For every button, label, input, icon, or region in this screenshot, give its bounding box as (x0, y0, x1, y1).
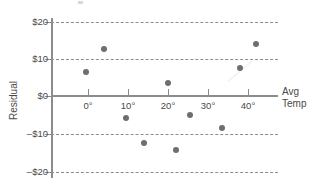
data-point (141, 140, 147, 146)
gridline-neg10 (51, 134, 278, 135)
x-axis-label-20: 20° (153, 101, 183, 111)
x-axis-label-30: 30° (193, 101, 223, 111)
data-point (237, 65, 243, 71)
data-point (187, 112, 193, 118)
data-point (83, 69, 89, 75)
x-tick-40 (248, 89, 249, 97)
y-axis-title: Residual (8, 66, 19, 136)
data-point (219, 125, 225, 131)
plot-area: $20 $10 $0 –$10 –$20 0° 10° 20° 30° 40° … (0, 0, 319, 196)
y-axis-label-neg20: –$20 (0, 167, 48, 177)
y-axis-label-neg20-text: –$20 (4, 167, 48, 177)
x-tick-10 (128, 89, 129, 97)
x-tick-30 (208, 89, 209, 97)
scan-artifact-icon (78, 1, 83, 4)
y-axis-label-10-text: $10 (4, 54, 48, 64)
x-tick-0 (88, 89, 89, 97)
y-axis-line (51, 18, 53, 178)
x-axis-label-0: 0° (73, 101, 103, 111)
x-axis-line (51, 95, 278, 97)
x-axis-label-40: 40° (233, 101, 263, 111)
x-tick-20 (168, 89, 169, 97)
gridline-20 (51, 22, 278, 23)
data-point (101, 46, 107, 52)
x-axis-title-line2: Temp (282, 98, 306, 110)
data-point (123, 115, 129, 121)
y-axis-label-20-text: $20 (4, 17, 48, 27)
y-axis-label-20: $20 (0, 17, 48, 27)
x-axis-label-10: 10° (113, 101, 143, 111)
residual-scatter-plot: $20 $10 $0 –$10 –$20 0° 10° 20° 30° 40° … (0, 0, 319, 196)
data-point (173, 147, 179, 153)
x-axis-title: Avg Temp (282, 86, 306, 109)
gridline-10 (51, 59, 278, 60)
data-point (253, 41, 259, 47)
data-point (165, 80, 171, 86)
gridline-neg20 (51, 172, 278, 173)
x-axis-title-line1: Avg (282, 86, 306, 98)
y-axis-label-10: $10 (0, 54, 48, 64)
